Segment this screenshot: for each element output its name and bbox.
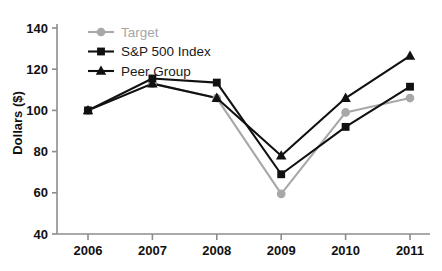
data-point-s-p-500-index — [277, 170, 285, 178]
data-point-target — [406, 94, 415, 103]
y-axis-title: Dollars ($) — [10, 91, 25, 155]
data-point-peer-group — [405, 50, 416, 59]
legend-marker-0 — [97, 28, 106, 37]
data-point-s-p-500-index — [406, 83, 414, 91]
x-tick-label: 2006 — [74, 243, 103, 258]
legend-marker-1 — [97, 48, 105, 56]
data-point-target — [341, 108, 350, 117]
data-point-peer-group — [340, 93, 351, 102]
legend-label-2: Peer Group — [121, 64, 191, 79]
series-line-target — [88, 84, 410, 194]
x-tick-label: 2010 — [331, 243, 360, 258]
stock-performance-chart: 406080100120140200620072008200920102011D… — [0, 0, 442, 271]
y-tick-label: 80 — [34, 144, 48, 159]
legend-label-1: S&P 500 Index — [121, 44, 211, 59]
y-tick-label: 120 — [26, 62, 48, 77]
x-tick-label: 2007 — [138, 243, 167, 258]
y-tick-label: 140 — [26, 21, 48, 36]
legend-label-0: Target — [121, 25, 159, 40]
y-tick-label: 60 — [34, 185, 48, 200]
data-point-s-p-500-index — [213, 79, 221, 87]
data-point-s-p-500-index — [342, 123, 350, 131]
x-tick-label: 2011 — [396, 243, 424, 258]
data-point-target — [277, 189, 286, 198]
x-tick-label: 2009 — [267, 243, 296, 258]
chart-canvas: 406080100120140200620072008200920102011D… — [0, 0, 442, 271]
y-tick-label: 100 — [26, 103, 48, 118]
x-tick-label: 2008 — [202, 243, 231, 258]
y-tick-label: 40 — [34, 227, 48, 242]
